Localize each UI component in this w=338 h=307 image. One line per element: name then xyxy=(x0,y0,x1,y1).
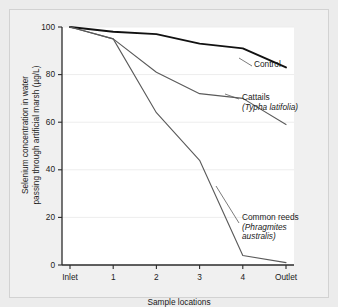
y-axis-title-line-1: Selenium concentration in water xyxy=(20,20,31,250)
series-label-common-reeds: Common reeds(Phragmitesaustralis) xyxy=(242,213,299,242)
x-tick-label-inlet: Inlet xyxy=(62,272,78,282)
line-chart xyxy=(10,10,328,297)
x-tick-label-outlet: Outlet xyxy=(275,272,297,282)
label-cattails-line-2: (Typha latifolia) xyxy=(242,103,298,113)
label-control-line-1: Control xyxy=(254,60,281,70)
x-tick-label-2: 2 xyxy=(154,272,159,282)
y-tick-label-0: 0 xyxy=(10,260,55,270)
y-axis-title: Selenium concentration in water passing … xyxy=(20,20,50,250)
label-reeds-line-3: australis) xyxy=(242,232,299,242)
series-label-cattails: Cattails(Typha latifolia) xyxy=(242,93,298,112)
figure-panel: 020406080100 Inlet1234Outlet Control Cat… xyxy=(9,9,329,298)
series-label-control: Control xyxy=(254,60,281,70)
x-tick-label-4: 4 xyxy=(240,272,245,282)
x-axis-title: Sample locations xyxy=(10,297,338,307)
x-tick-label-1: 1 xyxy=(111,272,116,282)
figure-container: 020406080100 Inlet1234Outlet Control Cat… xyxy=(0,0,338,307)
y-axis-title-line-2: passing through artificial marsh (µg/L) xyxy=(31,20,42,250)
x-tick-label-3: 3 xyxy=(197,272,202,282)
